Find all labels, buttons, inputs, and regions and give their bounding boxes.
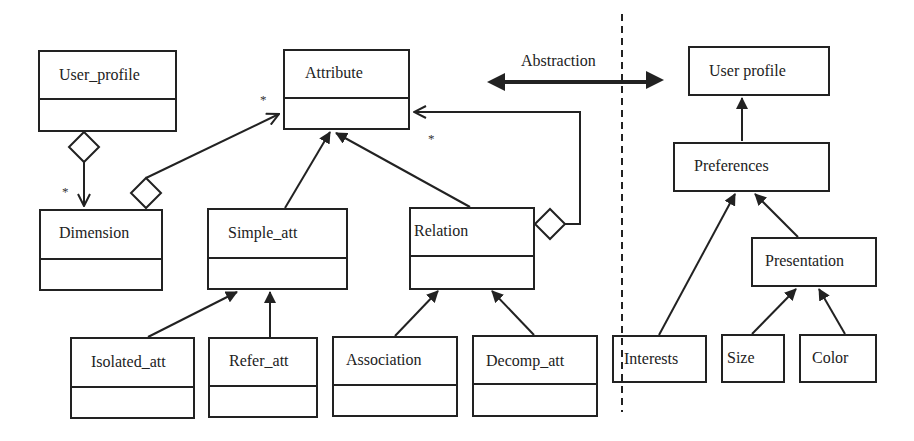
class-name: Refer_att	[210, 352, 316, 370]
class-decomp-att: Decomp_att	[472, 335, 598, 417]
class-dimension: Dimension	[39, 209, 163, 291]
multiplicity-label: *	[428, 131, 435, 147]
abstraction-arrow-right-head	[646, 71, 664, 89]
class-name: User profile	[690, 62, 828, 80]
class-divider	[334, 384, 456, 386]
class-presentation: Presentation	[751, 237, 877, 287]
class-name: User_profile	[40, 66, 175, 84]
class-refer-att: Refer_att	[208, 337, 318, 418]
uml-diagram: * * * Abstraction User_profile Attribute…	[0, 0, 914, 441]
class-user-profile: User_profile	[38, 50, 177, 132]
class-divider	[72, 386, 193, 388]
class-name: Association	[334, 351, 456, 369]
class-name: Color	[801, 349, 875, 367]
aggregation-diamond	[131, 178, 161, 208]
class-color: Color	[799, 334, 877, 383]
multiplicity-label: *	[260, 92, 267, 108]
class-divider	[41, 258, 161, 260]
class-name: Attribute	[285, 64, 408, 82]
class-name: Presentation	[753, 252, 875, 270]
class-name: Size	[723, 349, 783, 367]
abstraction-label: Abstraction	[521, 52, 596, 70]
class-name: Preferences	[675, 157, 828, 175]
class-size: Size	[721, 334, 785, 383]
class-interests: Interests	[612, 335, 707, 383]
multiplicity-label: *	[62, 184, 69, 200]
class-attribute: Attribute	[283, 49, 410, 130]
class-relation: Relation	[409, 207, 535, 290]
class-name: Simple_att	[209, 224, 346, 242]
class-divider	[411, 255, 533, 257]
class-name: Relation	[411, 222, 533, 240]
class-divider	[474, 383, 596, 385]
class-user-profile-right: User profile	[688, 46, 830, 96]
class-divider	[40, 98, 175, 100]
class-isolated-att: Isolated_att	[70, 337, 195, 419]
class-divider	[210, 385, 316, 387]
class-divider	[209, 257, 346, 259]
class-name: Isolated_att	[72, 353, 193, 371]
class-simple-att: Simple_att	[207, 208, 348, 290]
class-name: Interests	[614, 350, 705, 368]
class-name: Decomp_att	[474, 352, 596, 370]
aggregation-diamond	[69, 132, 99, 162]
aggregation-diamond	[535, 209, 565, 239]
class-preferences: Preferences	[673, 142, 830, 192]
abstraction-arrow-left-head	[487, 73, 505, 91]
class-association: Association	[332, 336, 458, 417]
class-name: Dimension	[41, 224, 161, 242]
class-divider	[285, 97, 408, 99]
